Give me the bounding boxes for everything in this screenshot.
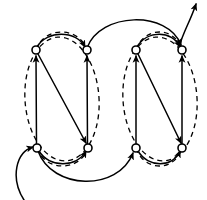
edge-n5-n7 xyxy=(38,151,133,181)
node-n7[interactable] xyxy=(132,144,140,152)
group-ellipse-layer xyxy=(21,35,201,164)
entry-curve-arrow xyxy=(16,147,33,200)
node-n3[interactable] xyxy=(132,46,140,54)
edge-n6-n2 xyxy=(87,56,88,145)
node-n6[interactable] xyxy=(84,144,92,152)
graph-diagram xyxy=(0,0,207,200)
exit-curve-arrow xyxy=(179,4,196,47)
edge-n3-n8 xyxy=(138,54,181,143)
edge-n5-n1 xyxy=(36,56,37,145)
edge-n1-n6 xyxy=(38,54,86,143)
node-n1[interactable] xyxy=(32,46,40,54)
node-n2[interactable] xyxy=(83,46,91,54)
node-n4[interactable] xyxy=(178,46,186,54)
node-n5[interactable] xyxy=(33,144,41,152)
figure-container xyxy=(0,0,207,200)
node-n8[interactable] xyxy=(178,144,186,152)
long-arc-layer xyxy=(38,20,181,181)
edge-n1-n2 xyxy=(37,34,85,47)
terminal-edge-layer xyxy=(16,4,196,200)
short-arc-layer xyxy=(37,34,180,164)
diagonal-edge-layer xyxy=(38,54,181,143)
node-layer xyxy=(32,46,186,152)
